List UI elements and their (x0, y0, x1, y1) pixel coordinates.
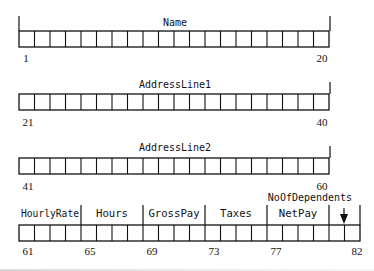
cells-row-2 (19, 94, 329, 110)
arrow-down-icon (340, 208, 348, 224)
end-position: 40 (317, 116, 329, 128)
end-position: 60 (317, 180, 329, 192)
cells-row-3 (19, 158, 329, 174)
field-label-hours: Hours (96, 208, 128, 219)
payroll-field-labels: HourlyRate61Hours65GrossPay69Taxes73NetP… (21, 205, 360, 257)
row-payroll: NoOfDependents HourlyRate61Hours65GrossP… (19, 192, 363, 257)
field-label-addressline1: AddressLine1 (139, 79, 211, 90)
field-label-taxes: Taxes (220, 208, 252, 219)
start-position: 41 (23, 180, 34, 192)
start-position: 73 (209, 245, 221, 257)
field-label-hourlyrate: HourlyRate (21, 208, 79, 219)
field-label-netpay: NetPay (279, 208, 317, 219)
field-label-grosspay: GrossPay (148, 208, 199, 219)
cells-row-4 (19, 225, 360, 241)
cells-row-1 (19, 31, 329, 47)
row-addressline1: AddressLine1 21 40 (19, 79, 330, 128)
start-position: 21 (23, 116, 34, 128)
start-position: 65 (85, 245, 97, 257)
end-position: 82 (352, 245, 363, 257)
field-label-addressline2: AddressLine2 (139, 142, 211, 153)
record-layout-diagram: Name 1 20 AddressLine1 21 40 AddressLine… (0, 0, 374, 271)
end-position: 20 (317, 52, 329, 64)
field-label-name: Name (163, 17, 187, 28)
field-label-noofdependents: NoOfDependents (268, 192, 352, 203)
row-name: Name 1 20 (19, 16, 330, 64)
start-position: 77 (271, 245, 283, 257)
start-position: 61 (23, 245, 34, 257)
row-addressline2: AddressLine2 41 60 (19, 142, 330, 192)
start-position: 1 (23, 52, 29, 64)
start-position: 69 (147, 245, 159, 257)
